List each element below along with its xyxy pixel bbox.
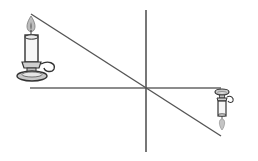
light-ray-line <box>31 14 221 136</box>
pinhole-diagram <box>0 0 258 161</box>
inverted-candle-icon <box>215 89 233 130</box>
diagram-canvas <box>0 0 258 161</box>
